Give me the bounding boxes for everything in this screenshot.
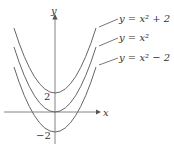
chart-svg: y = x² + 2 y = x² y = x² − 2 y x 2 −2 xyxy=(0,0,174,144)
leader-curve1 xyxy=(99,19,118,27)
curve2-label: y = x² xyxy=(118,32,149,43)
y-axis-label: y xyxy=(50,5,57,16)
leader-curve2 xyxy=(99,38,118,46)
leader-curve3 xyxy=(99,58,118,65)
x-axis-label: x xyxy=(103,107,109,118)
tick-label-2: 2 xyxy=(44,91,50,102)
curve1-label: y = x² + 2 xyxy=(118,13,170,24)
tick-label-neg2: −2 xyxy=(36,130,51,141)
curve3-label: y = x² − 2 xyxy=(118,52,170,63)
